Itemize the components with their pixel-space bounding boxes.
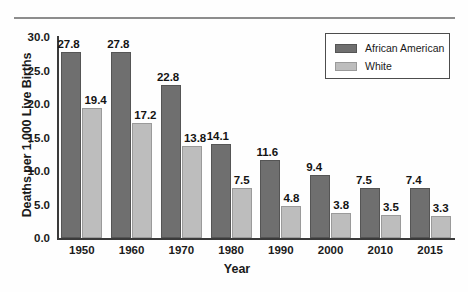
bar-value-label: 13.8	[184, 132, 206, 144]
x-axis-tick-label: 1960	[119, 244, 145, 256]
bar-white-1950[interactable]	[82, 108, 102, 238]
x-axis-tick-label: 1990	[268, 244, 294, 256]
legend-entry-white: White	[335, 60, 392, 72]
bar-value-label: 17.2	[134, 109, 156, 121]
x-axis-tick-label: 2000	[318, 244, 344, 256]
legend-swatch-icon-white	[335, 62, 357, 71]
bar-african-american-1960[interactable]	[111, 52, 131, 238]
legend-label-white: White	[365, 60, 392, 72]
bar-value-label: 3.8	[333, 199, 349, 211]
bar-value-label: 4.8	[283, 192, 299, 204]
bar-african-american-1970[interactable]	[161, 85, 181, 238]
bar-white-2000[interactable]	[331, 213, 351, 238]
legend-label-african-american: African American	[365, 42, 444, 54]
bar-value-label: 19.4	[84, 94, 106, 106]
x-axis-tick-label: 2010	[368, 244, 394, 256]
x-axis-tick-label: 1970	[169, 244, 195, 256]
bar-value-label: 9.4	[306, 161, 322, 173]
bar-group: 11.64.8	[256, 37, 306, 238]
x-axis-tick-label: 1950	[69, 244, 95, 256]
bar-value-label: 3.5	[383, 201, 399, 213]
bar-african-american-2000[interactable]	[310, 175, 330, 238]
bar-value-label: 7.5	[356, 174, 372, 186]
bar-value-label: 27.8	[107, 38, 129, 50]
bar-white-1980[interactable]	[232, 188, 252, 238]
legend-entry-african-american: African American	[335, 42, 444, 54]
legend-swatch-icon-african-american	[335, 44, 357, 53]
bar-group: 27.817.2	[107, 37, 157, 238]
x-axis-tick-label: 2015	[417, 244, 443, 256]
bar-group: 22.813.8	[157, 37, 207, 238]
bar-african-american-1990[interactable]	[260, 160, 280, 238]
bar-value-label: 14.1	[207, 130, 229, 142]
bar-african-american-2010[interactable]	[360, 188, 380, 238]
legend: African American White	[325, 33, 450, 79]
bar-group: 27.819.4	[57, 37, 107, 238]
x-axis-title: Year	[224, 262, 250, 276]
bar-white-1970[interactable]	[182, 146, 202, 238]
bar-white-1960[interactable]	[132, 123, 152, 238]
bar-african-american-2015[interactable]	[410, 188, 430, 238]
bar-african-american-1950[interactable]	[61, 52, 81, 238]
bar-white-2010[interactable]	[381, 215, 401, 238]
bar-white-2015[interactable]	[431, 216, 451, 238]
x-axis-tick-label: 1980	[218, 244, 244, 256]
bar-value-label: 7.4	[406, 174, 422, 186]
bar-value-label: 27.8	[57, 38, 79, 50]
bar-white-1990[interactable]	[281, 206, 301, 238]
bar-african-american-1980[interactable]	[211, 144, 231, 238]
y-axis-title: Deaths per 1,000 Live Births	[20, 20, 34, 250]
bar-value-label: 11.6	[256, 146, 278, 158]
header-rule	[14, 17, 455, 19]
figure: Deaths per 1,000 Live Births 0.05.010.01…	[0, 0, 468, 292]
x-axis-line	[57, 238, 455, 240]
bar-value-label: 7.5	[234, 174, 250, 186]
bar-value-label: 22.8	[157, 71, 179, 83]
bar-value-label: 3.3	[433, 202, 449, 214]
bar-group: 14.17.5	[206, 37, 256, 238]
